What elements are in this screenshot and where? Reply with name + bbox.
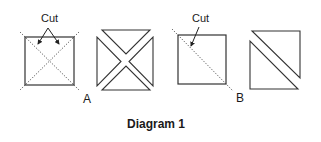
figure-label-a: A [83, 92, 91, 106]
figure-label-b: B [236, 91, 244, 105]
square-b [172, 27, 233, 91]
diagram-title: Diagram 1 [127, 117, 185, 131]
cut-label-a: Cut [41, 12, 58, 24]
cut-label-b: Cut [192, 12, 209, 24]
quarter-square-triangles [97, 30, 153, 90]
square-a [20, 28, 79, 90]
half-square-triangles [250, 31, 300, 89]
